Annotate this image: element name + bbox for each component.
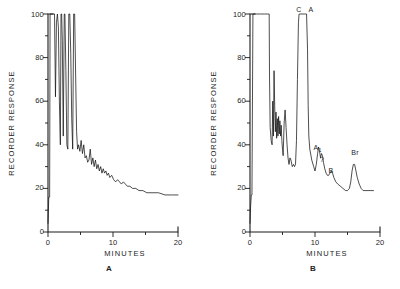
- panel-caption-a: A: [106, 264, 112, 273]
- panel-b-ytick-100: 100: [233, 10, 246, 19]
- panel-a-xtick-10: 10: [109, 238, 118, 247]
- peak-label-a: A: [309, 6, 314, 13]
- panel-a-yaxis-title: RECORDER RESPONSE: [7, 70, 16, 175]
- panel-b-ytick-40: 40: [237, 140, 246, 149]
- panel-b-ytick-80: 80: [237, 53, 246, 62]
- chromatogram-figure: 100 80 60 40 20 0 0 10 20 MINUTES RECORD…: [0, 0, 400, 289]
- peak-label-unknown: ?: [320, 156, 324, 163]
- panel-b-xtick-10: 10: [311, 238, 320, 247]
- panel-b-ytick-60: 60: [237, 96, 246, 105]
- panel-a-xtick-20: 20: [174, 238, 183, 247]
- panel-a-xaxis-title: MINUTES: [104, 249, 145, 258]
- panel-a-xtick-0: 0: [46, 238, 50, 247]
- panel-a-ytick-80: 80: [35, 53, 44, 62]
- panel-b-yaxis-title: RECORDER RESPONSE: [209, 70, 218, 175]
- panel-a-ytick-100: 100: [31, 10, 44, 19]
- peak-label-c: C: [296, 6, 301, 13]
- figure-container: 100 80 60 40 20 0 0 10 20 MINUTES RECORD…: [0, 0, 400, 289]
- panel-b-xtick-0: 0: [248, 238, 252, 247]
- panel-caption-b: B: [310, 264, 316, 273]
- peak-label-br: Br: [351, 149, 359, 156]
- panel-a-ytick-0: 0: [40, 227, 44, 236]
- panel-a-ytick-60: 60: [35, 96, 44, 105]
- panel-a-ytick-20: 20: [35, 183, 44, 192]
- peak-label-a1-subscript: 1: [319, 148, 322, 153]
- panel-b-xtick-20: 20: [376, 238, 385, 247]
- panel-b-ytick-0: 0: [242, 227, 246, 236]
- panel-b-ytick-20: 20: [237, 183, 246, 192]
- panel-b-xaxis-title: MINUTES: [306, 249, 347, 258]
- peak-label-b: B: [329, 167, 334, 174]
- panel-a-ytick-40: 40: [35, 140, 44, 149]
